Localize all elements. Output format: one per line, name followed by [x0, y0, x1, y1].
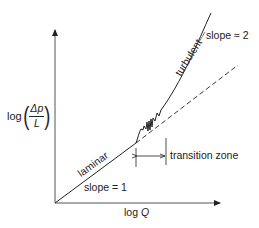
y-axis-label-close-paren: ): [45, 103, 51, 129]
flow-regime-diagram: log ( Δp L ) log Q laminar slope = 1 tur…: [0, 0, 259, 228]
turbulent-slope-label: slope ≈ 2: [206, 30, 249, 41]
y-axis-label-log: log: [7, 110, 22, 122]
y-axis-label: log ( Δp L ): [7, 103, 52, 129]
y-axis-label-open-paren: (: [23, 103, 29, 129]
x-axis-label-log: log: [124, 206, 138, 218]
y-axis-label-numerator: Δp: [29, 103, 44, 117]
transition-zone-label: transition zone: [170, 150, 238, 161]
y-axis-label-fraction: Δp L: [29, 103, 44, 129]
turbulent-curve: [136, 13, 211, 143]
laminar-line: [55, 143, 136, 203]
y-axis-label-denominator: L: [34, 117, 40, 130]
laminar-slope-label: slope = 1: [84, 182, 127, 193]
x-axis-label: log Q: [124, 207, 149, 218]
laminar-extrapolation-dashed: [136, 65, 238, 143]
x-axis-label-var: Q: [141, 206, 149, 218]
